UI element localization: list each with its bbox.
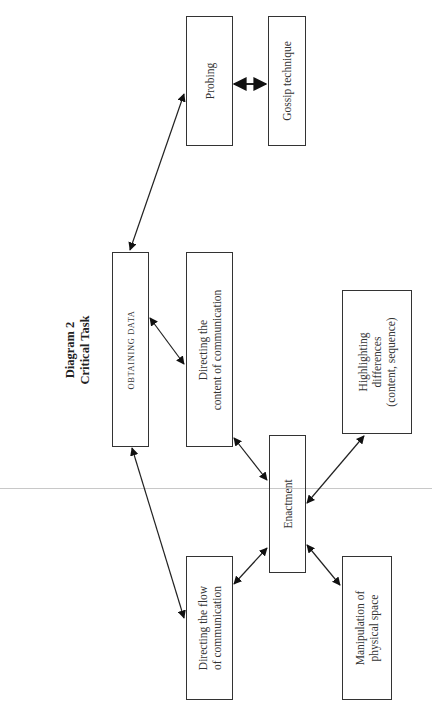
edge-enactment-manipulation: [307, 545, 340, 585]
node-manipulation-label: Manipulation of physical space: [353, 591, 381, 665]
edge-obtaining-content: [150, 318, 184, 364]
edge-flow-enactment: [234, 548, 267, 584]
node-obtaining-data: OBTAINING DATA: [112, 252, 149, 447]
node-highlighting-label: Highlighting differences (content, seque…: [356, 317, 398, 406]
node-probing: Probing: [186, 16, 233, 146]
node-gossip-technique: Gossip technique: [268, 16, 306, 146]
node-manipulation-physical-space: Manipulation of physical space: [342, 556, 392, 700]
node-highlighting-differences: Highlighting differences (content, seque…: [342, 290, 412, 434]
node-enactment: Enactment: [269, 435, 306, 573]
node-directing-content-label: Directing the content of communication: [196, 289, 224, 410]
node-directing-flow-label: Directing the flow of communication: [196, 586, 224, 670]
edge-enactment-highlighting: [307, 436, 364, 503]
edge-content-enactment: [234, 438, 267, 480]
node-enactment-label: Enactment: [281, 479, 295, 528]
node-probing-label: Probing: [203, 63, 217, 99]
edge-obtaining-flow: [132, 448, 184, 618]
node-gossip-label: Gossip technique: [280, 41, 294, 121]
node-obtaining-data-label: OBTAINING DATA: [124, 310, 138, 389]
edge-obtaining-probing: [130, 94, 184, 250]
node-directing-flow: Directing the flow of communication: [186, 556, 233, 700]
node-directing-content: Directing the content of communication: [186, 252, 233, 447]
